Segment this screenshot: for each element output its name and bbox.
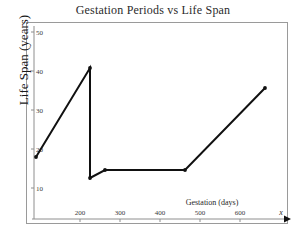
x-axis-variable-label: x: [278, 208, 283, 217]
plot-canvas: 50 40 30 20 10 200 300 400 500 600 Gesta…: [0, 0, 306, 238]
chart-page: Gestation Periods vs Life Span Life Span…: [0, 0, 306, 238]
data-point: [103, 168, 107, 172]
x-tick-label-500: 500: [195, 209, 206, 217]
data-point: [88, 176, 92, 180]
y-tick-label-10: 10: [36, 185, 44, 193]
x-tick-label-400: 400: [155, 209, 166, 217]
y-tick-label-40: 40: [36, 68, 44, 76]
y-tick-label-50: 50: [36, 29, 44, 37]
x-tick-label-200: 200: [75, 209, 86, 217]
x-axis-label: Gestation (days): [186, 198, 239, 207]
x-tick-label-600: 600: [235, 209, 246, 217]
data-point: [88, 66, 92, 70]
x-tick-label-300: 300: [115, 209, 126, 217]
x-axis-arrow-icon: [284, 216, 291, 223]
data-point: [263, 86, 267, 90]
data-point: [34, 155, 38, 159]
data-series-line: [36, 68, 265, 178]
data-point: [183, 168, 187, 172]
y-tick-label-30: 30: [36, 107, 44, 115]
